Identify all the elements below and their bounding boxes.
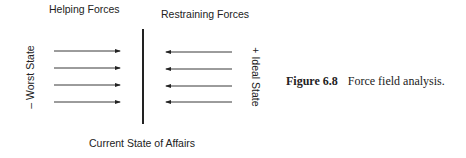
helping-arrows [54,51,120,102]
restraining-arrows [166,52,232,102]
figure-caption-text: Force field analysis. [348,74,445,88]
figure-caption: Figure 6.8Force field analysis. [286,74,445,89]
figure-number: Figure 6.8 [286,74,338,88]
